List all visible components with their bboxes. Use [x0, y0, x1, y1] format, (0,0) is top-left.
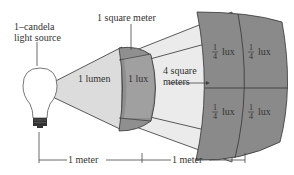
four-sq-label-line2: meters — [163, 76, 190, 87]
svg-text:4: 4 — [213, 52, 217, 61]
lumen-label: 1 lumen — [78, 73, 111, 84]
source-label-line1: 1–candela — [14, 21, 55, 32]
four-square-meter-surface — [196, 12, 288, 160]
svg-text:4: 4 — [213, 112, 217, 121]
svg-text:4: 4 — [249, 52, 253, 61]
distance-label-1: 1 meter — [68, 154, 99, 165]
svg-text:1: 1 — [213, 103, 217, 112]
svg-text:4: 4 — [249, 112, 253, 121]
svg-text:1: 1 — [213, 43, 217, 52]
distance-label-2: 1 meter — [172, 154, 203, 165]
one-lux-face — [124, 54, 154, 118]
four-sq-label-line1: 4 square — [163, 65, 197, 76]
inverse-square-diagram: 1–candela light source 1 square meter 1 … — [0, 0, 294, 175]
light-bulb-icon — [23, 68, 57, 128]
svg-text:lux: lux — [222, 106, 235, 117]
source-label-line2: light source — [14, 32, 61, 43]
square-meter-label: 1 square meter — [97, 12, 157, 23]
svg-text:lux: lux — [222, 46, 235, 57]
svg-text:lux: lux — [258, 106, 271, 117]
svg-text:1: 1 — [249, 43, 253, 52]
svg-text:1: 1 — [249, 103, 253, 112]
lux-label: 1 lux — [128, 73, 148, 84]
svg-text:lux: lux — [258, 46, 271, 57]
